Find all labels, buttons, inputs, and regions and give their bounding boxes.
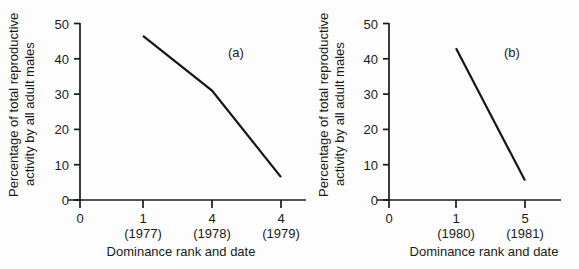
panel-b-ytick-label-0: 0 — [371, 193, 378, 208]
panel-a-ytick-label-30: 30 — [55, 87, 69, 102]
panel-a-xtick-label-1: 1 — [139, 211, 146, 226]
panel-b-xtick-date-2: (1981) — [506, 226, 544, 241]
panel-b-xtick-label-1: 1 — [452, 211, 459, 226]
chart-svg: Percentage of total reproductive activit… — [0, 0, 579, 269]
figure-container: Percentage of total reproductive activit… — [0, 0, 579, 269]
panel-a-ytick-label-50: 50 — [55, 17, 69, 32]
panel-a-ytick-label-10: 10 — [55, 158, 69, 173]
panel-a-xtick-date-3: (1979) — [262, 226, 300, 241]
panel-b-xtick-label-2: 5 — [521, 211, 528, 226]
panel-a-xtick-label-3: 4 — [277, 211, 284, 226]
panel-a-xlabel: Dominance rank and date — [107, 244, 256, 259]
panel-b-ylabel-line1: Percentage of total reproductive — [316, 13, 331, 197]
panel-a-ylabel-line1: Percentage of total reproductive — [6, 13, 21, 197]
panel-b-ytick-label-50: 50 — [364, 17, 378, 32]
panel-b-xlabel: Dominance rank and date — [410, 244, 559, 259]
panel-a-data-line — [143, 36, 281, 177]
panel-b-xtick-date-1: (1980) — [437, 226, 475, 241]
panel-a-xtick-date-2: (1978) — [193, 226, 231, 241]
panel-a-xtick-label-0: 0 — [76, 211, 83, 226]
panel-a-label: (a) — [228, 45, 244, 60]
panel-a-ytick-label-0: 0 — [62, 193, 69, 208]
panel-a-ytick-label-40: 40 — [55, 52, 69, 67]
panel-a-xtick-label-2: 4 — [208, 211, 215, 226]
panel-b-ylabel-line2: activity by all adult males — [332, 42, 347, 186]
panel-a-ytick-label-20: 20 — [55, 122, 69, 137]
panel-a-ylabel-line2: activity by all adult males — [22, 42, 37, 186]
panel-b: Percentage of total reproductive activit… — [316, 13, 561, 259]
panel-a-xtick-date-1: (1977) — [124, 226, 162, 241]
panel-b-ytick-label-40: 40 — [364, 52, 378, 67]
panel-b-xtick-label-0: 0 — [385, 211, 392, 226]
panel-b-ytick-label-30: 30 — [364, 87, 378, 102]
panel-b-label: (b) — [504, 45, 520, 60]
panel-b-ytick-label-20: 20 — [364, 122, 378, 137]
panel-a: Percentage of total reproductive activit… — [6, 13, 306, 259]
panel-b-data-line — [456, 48, 525, 180]
panel-b-ytick-label-10: 10 — [364, 158, 378, 173]
